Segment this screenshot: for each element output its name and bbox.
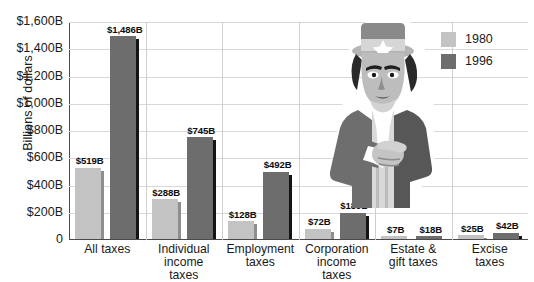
bar-1980-5[interactable] [458, 235, 487, 238]
bar-edge [519, 236, 522, 239]
bar-body [340, 213, 366, 239]
category-label: All taxes [69, 243, 146, 256]
bar-body [187, 137, 213, 239]
bar-value-label: $42B [483, 220, 532, 231]
bar-edge [331, 232, 334, 239]
y-tick-label: $800B [0, 123, 63, 137]
group-separator [299, 22, 300, 240]
tax-revenue-bar-chart: Billions of dollars $519B$1,486B$288B$74… [0, 0, 534, 282]
bar-body [110, 36, 136, 238]
bar-value-label: $72B [295, 216, 344, 227]
bar-body [416, 236, 442, 239]
bar-edge [289, 175, 292, 239]
y-tick-label: $1,200B [0, 69, 63, 83]
category-label: Individual income taxes [146, 243, 223, 282]
y-tick-label: $600B [0, 150, 63, 164]
bar-body [458, 235, 484, 238]
bar-edge [178, 202, 181, 238]
bar-value-label: $519B [65, 155, 114, 166]
bar-1980-1[interactable] [152, 199, 181, 238]
bar-body [152, 199, 178, 238]
legend: 1980 1996 [441, 28, 493, 72]
bar-body [263, 172, 289, 239]
bar-value-label: $288B [142, 187, 191, 198]
category-label: Excise taxes [452, 243, 529, 269]
bar-edge [101, 171, 104, 239]
bar-body [228, 221, 254, 238]
category-label: Employment taxes [222, 243, 299, 269]
y-tick-label: $1,000B [0, 96, 63, 110]
legend-label-1980: 1980 [465, 32, 493, 46]
bar-1996-0[interactable] [110, 36, 139, 238]
bar-body [493, 233, 519, 239]
y-tick-label: $1,400B [0, 41, 63, 55]
bar-value-label: $128B [218, 209, 267, 220]
bar-edge [136, 39, 139, 238]
bar-1980-3[interactable] [305, 229, 334, 239]
y-tick-label: $200B [0, 205, 63, 219]
bar-value-label: $1,486B [100, 24, 149, 35]
bar-1980-2[interactable] [228, 221, 257, 238]
bar-body [305, 229, 331, 239]
bar-1996-5[interactable] [493, 233, 522, 239]
bar-1996-4[interactable] [416, 236, 445, 239]
legend-swatch-1996 [441, 54, 456, 69]
bar-edge [213, 140, 216, 239]
bar-edge [366, 216, 369, 239]
legend-item-1980[interactable]: 1980 [441, 28, 493, 50]
bar-1996-1[interactable] [187, 137, 216, 239]
bar-value-label: $492B [253, 159, 302, 170]
legend-swatch-1980 [441, 32, 456, 47]
category-label: Corporation income taxes [299, 243, 376, 282]
y-tick-label: $1,600B [0, 14, 63, 28]
uncle-sam-pointing-illustration [312, 12, 434, 212]
bar-1980-4[interactable] [381, 236, 410, 239]
bar-1980-0[interactable] [75, 168, 104, 239]
y-tick-label: $400B [0, 178, 63, 192]
bar-edge [254, 224, 257, 238]
bar-body [381, 236, 407, 239]
legend-item-1996[interactable]: 1996 [441, 50, 493, 72]
y-tick-label: 0 [0, 232, 63, 246]
legend-label-1996: 1996 [465, 54, 493, 68]
category-label: Estate & gift taxes [375, 243, 452, 269]
bar-1996-2[interactable] [263, 172, 292, 239]
bar-1996-3[interactable] [340, 213, 369, 239]
group-separator [146, 22, 147, 240]
bar-value-label: $745B [177, 125, 226, 136]
bar-body [75, 168, 101, 239]
